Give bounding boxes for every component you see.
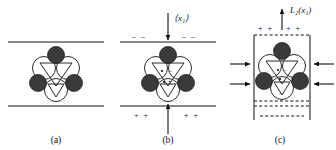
dipole-dot-upper xyxy=(161,70,163,72)
charge-label-top-right: + + xyxy=(286,24,302,33)
panel-a: (a) xyxy=(0,0,112,150)
panel-a-caption: (a) xyxy=(0,135,112,145)
cluster-a xyxy=(30,47,83,102)
center-dot-lower xyxy=(279,78,281,80)
panel-b: ⟨x₁⟩ – – – – + + + + xyxy=(112,0,224,150)
internal-minus-upper: – xyxy=(283,67,287,73)
dark-atom xyxy=(142,75,159,92)
light-atom xyxy=(271,77,294,100)
panel-b-graphic: ⟨x₁⟩ – – – – + + + + xyxy=(112,0,224,150)
field-label-b: ⟨x₁⟩ xyxy=(174,13,189,23)
dark-atom xyxy=(48,47,65,64)
panel-b-caption: (b) xyxy=(112,135,224,145)
field-label-c: L₂(x₁) xyxy=(289,5,311,15)
dark-atom xyxy=(274,43,291,60)
internal-minus-lower: – xyxy=(278,90,282,96)
panel-c-caption: (c) xyxy=(224,135,336,145)
charge-label-top-right: – – xyxy=(181,32,197,41)
dipole-plus: + xyxy=(168,79,171,85)
figure-canvas: (a) ⟨x₁⟩ – – – – + + + + xyxy=(0,0,336,150)
panel-c-graphic: L₂(x₁) + + + + xyxy=(224,0,336,150)
charge-label-top-left: – – xyxy=(131,32,147,41)
charge-label-top-left: + + xyxy=(258,24,274,33)
dipole-minus: – xyxy=(168,68,172,74)
panel-a-graphic xyxy=(0,0,112,150)
light-atom xyxy=(45,79,68,102)
center-dot xyxy=(277,69,279,71)
dark-atom xyxy=(160,47,177,64)
charge-label-bottom-left: + + xyxy=(134,111,150,120)
dark-atom xyxy=(178,75,195,92)
dark-atom xyxy=(66,75,83,92)
dark-atom xyxy=(30,75,47,92)
dark-atom xyxy=(292,73,309,90)
cluster-b xyxy=(142,47,195,102)
panel-c: L₂(x₁) + + + + xyxy=(224,0,336,150)
dipole-dot-lower xyxy=(163,81,165,83)
dark-atom xyxy=(256,73,273,90)
charge-label-bottom-right: + + xyxy=(184,111,200,120)
cluster-c xyxy=(256,43,309,100)
